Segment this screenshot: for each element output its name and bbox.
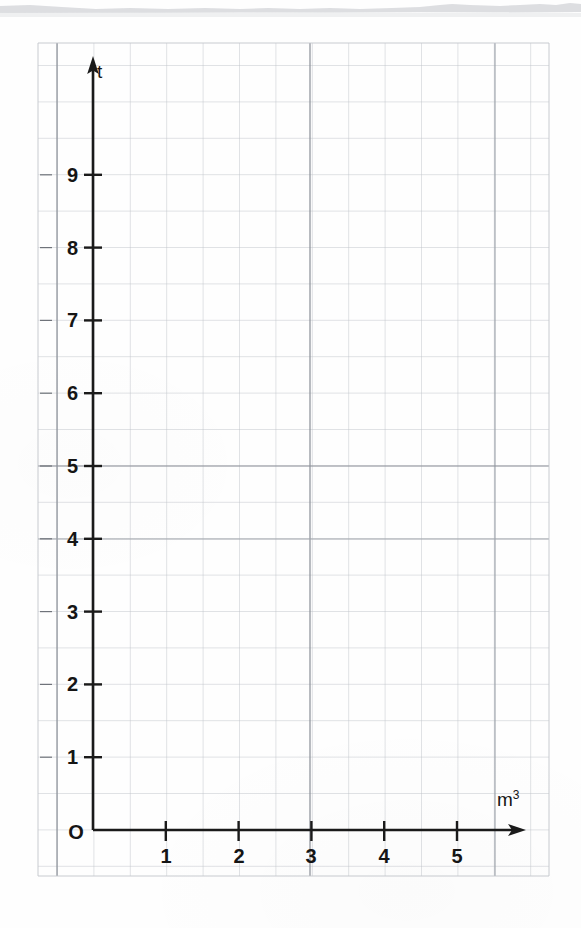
y-tick-label-9: 9 <box>67 165 78 185</box>
x-axis-label-base: m <box>497 789 513 810</box>
graph-paper-page: 1 2 3 4 5 6 7 8 9 1 2 3 4 5 O t m3 <box>0 0 581 928</box>
y-tick-label-8: 8 <box>67 238 78 258</box>
x-tick-label-4: 4 <box>378 846 389 866</box>
right-arrow-icon <box>508 824 526 836</box>
grid-lines <box>38 43 549 876</box>
x-tick-label-1: 1 <box>160 846 171 866</box>
y-tick-label-1: 1 <box>67 747 78 767</box>
y-tick-label-6: 6 <box>67 383 78 403</box>
y-axis-label: t <box>97 62 102 81</box>
origin-label: O <box>68 821 84 844</box>
x-tick-label-2: 2 <box>233 846 244 866</box>
y-tick-label-2: 2 <box>67 674 78 694</box>
x-axis <box>93 821 526 841</box>
y-tick-label-3: 3 <box>67 602 78 622</box>
y-axis-ticks <box>84 175 102 757</box>
paper-scan-tint <box>0 0 581 928</box>
x-axis-label-superscript: 3 <box>513 788 520 802</box>
torn-paper-edge <box>0 0 581 22</box>
y-tick-label-5: 5 <box>67 456 78 476</box>
y-axis-label-stubs <box>40 175 52 757</box>
coordinate-grid <box>0 0 581 928</box>
x-axis-label: m3 <box>497 789 520 809</box>
x-axis-ticks <box>166 821 457 841</box>
x-tick-label-3: 3 <box>305 846 316 866</box>
y-tick-label-7: 7 <box>67 310 78 330</box>
x-tick-label-5: 5 <box>451 846 462 866</box>
y-tick-label-4: 4 <box>67 529 78 549</box>
